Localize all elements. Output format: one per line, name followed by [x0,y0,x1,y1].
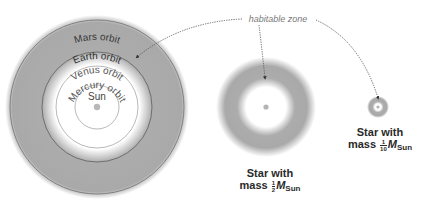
half-mass-star-caption: Star with mass 12MSun [230,167,310,195]
fraction-one-half: 12 [272,180,275,193]
tenth-mass-star-dot [376,105,379,108]
tenth-mass-star-system [367,96,389,118]
caption-line2: mass 110MSun [342,138,418,154]
habitable-zone-diagram: Mars orbit Earth orbit Venus orbit Mercu… [0,0,422,210]
habitable-zone-label: habitable zone [249,14,308,24]
mass-subscript: Sun [397,143,412,152]
half-mass-star-dot [263,104,268,109]
mass-symbol: M [388,138,397,150]
sun-dot [94,104,100,110]
caption-mass-word: mass [240,179,268,191]
caption-line2: mass 12MSun [230,179,310,195]
caption-line1: Star with [230,167,310,179]
half-mass-star-system [216,57,316,157]
solar-system: Mars orbit Earth orbit Venus orbit Mercu… [5,15,189,199]
caption-line1: Star with [342,126,418,138]
tenth-mass-star-caption: Star with mass 110MSun [342,126,418,154]
mass-subscript: Sun [285,184,300,193]
caption-mass-word: mass [348,138,376,150]
mass-symbol: M [276,179,285,191]
sun-label: Sun [88,91,106,102]
arrow-to-tenth-mass-zone [316,20,378,98]
fraction-one-tenth: 110 [380,139,387,152]
